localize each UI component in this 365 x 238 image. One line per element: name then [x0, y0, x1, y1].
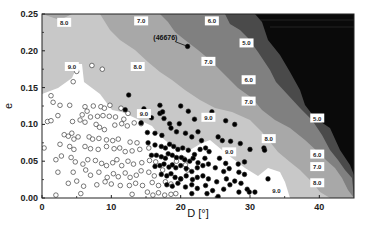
data-point-filled [176, 147, 181, 152]
data-point-filled [262, 148, 267, 153]
data-point-open [67, 103, 72, 108]
data-point-filled [242, 160, 247, 165]
data-point-filled [185, 44, 190, 49]
data-point-open [99, 161, 104, 166]
data-point-filled [190, 177, 195, 182]
x-tick-label: 40 [314, 202, 324, 212]
y-tick-label: 0.00 [20, 193, 38, 203]
data-point-open [88, 173, 93, 178]
data-point-open [110, 138, 115, 143]
data-point-open [111, 171, 116, 176]
data-point-filled [153, 143, 158, 148]
data-point-filled [195, 166, 200, 171]
data-point-open [105, 175, 110, 180]
data-point-filled [207, 149, 212, 154]
data-point-open [118, 183, 123, 188]
data-point-open [93, 158, 98, 163]
y-tick-label: 0.15 [20, 83, 38, 93]
data-point-filled [174, 166, 179, 171]
data-point-filled [184, 166, 189, 171]
data-point-open [110, 160, 115, 165]
data-point-open [91, 104, 96, 109]
y-tick-label: 0.20 [20, 46, 38, 56]
data-point-open [145, 190, 150, 195]
data-point-open [83, 168, 88, 173]
x-tick-label: 30 [245, 202, 255, 212]
contour-label: 5.0 [242, 40, 251, 46]
contour-label: 9.0 [272, 188, 281, 194]
data-point-filled [239, 181, 244, 186]
data-point-filled [210, 188, 215, 193]
data-point-open [117, 146, 122, 151]
data-point-open [156, 183, 161, 188]
data-point-open [90, 63, 95, 68]
data-point-open [66, 181, 71, 186]
contour-label: 9.0 [68, 64, 77, 70]
data-point-open [132, 121, 137, 126]
data-point-filled [237, 170, 242, 175]
data-point-open [78, 118, 83, 123]
data-point-open [51, 100, 56, 105]
data-point-filled [253, 190, 258, 195]
data-point-open [96, 147, 101, 152]
data-point-filled [266, 177, 271, 182]
data-point-open [83, 120, 88, 125]
data-point-open [151, 193, 156, 198]
data-point-open [104, 163, 109, 168]
data-point-filled [126, 93, 131, 98]
data-point-filled [199, 138, 204, 143]
data-point-filled [217, 156, 222, 161]
data-point-filled [170, 153, 175, 158]
data-point-filled [201, 174, 206, 179]
contour-label: 7.0 [137, 18, 146, 24]
data-point-filled [183, 157, 188, 162]
data-point-open [147, 170, 152, 175]
data-point-filled [213, 166, 218, 171]
data-point-filled [177, 121, 182, 126]
data-point-filled [145, 130, 150, 135]
data-point-open [139, 169, 144, 174]
data-point-open [133, 181, 138, 186]
data-point-filled [149, 153, 154, 158]
data-point-open [67, 144, 72, 149]
data-point-filled [165, 183, 170, 188]
data-point-open [97, 170, 102, 175]
data-point-filled [198, 147, 203, 152]
data-point-filled [183, 131, 188, 136]
data-point-open [123, 171, 128, 176]
data-point-open [54, 193, 59, 198]
data-point-open [80, 113, 85, 118]
data-point-open [103, 180, 108, 185]
data-point-filled [205, 191, 210, 196]
data-point-filled [248, 147, 253, 152]
data-point-open [83, 144, 88, 149]
data-point-filled [206, 162, 211, 167]
data-point-filled [190, 135, 195, 140]
data-point-open [112, 146, 117, 151]
data-point-open [76, 135, 81, 140]
data-point-filled [201, 163, 206, 168]
y-tick-label: 0.25 [20, 9, 38, 19]
contour-label: 6.0 [208, 18, 217, 24]
data-point-filled [139, 121, 144, 126]
data-point-open [59, 154, 64, 159]
data-point-open [113, 123, 118, 128]
data-point-open [119, 163, 124, 168]
asteroid-annotation: (46676) [153, 34, 177, 42]
data-point-open [125, 124, 130, 129]
data-point-filled [206, 177, 211, 182]
data-point-filled [227, 166, 232, 171]
data-point-open [156, 191, 161, 196]
data-point-open [147, 158, 152, 163]
data-point-open [100, 67, 105, 72]
data-point-open [140, 183, 145, 188]
data-point-open [135, 141, 140, 146]
data-point-open [102, 127, 107, 132]
y-axis-title: e [2, 103, 14, 109]
data-point-open [104, 138, 109, 143]
data-point-filled [153, 164, 158, 169]
data-point-filled [146, 141, 151, 146]
data-point-open [119, 121, 124, 126]
data-point-filled [220, 138, 225, 143]
data-point-open [134, 173, 139, 178]
